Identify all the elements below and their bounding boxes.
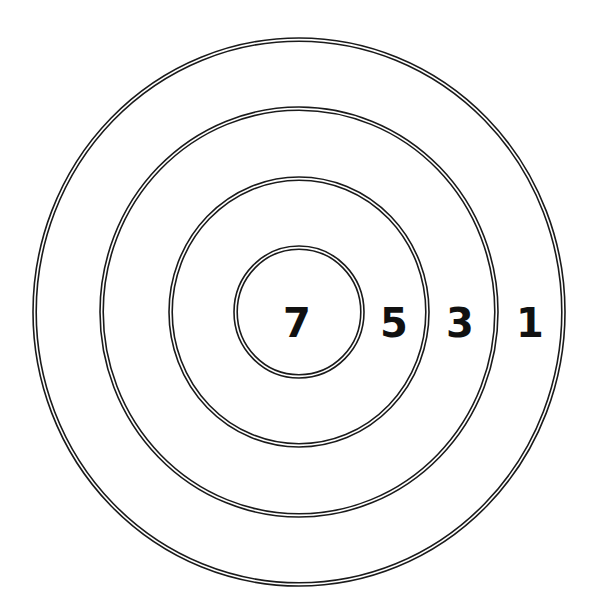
score-label-1: 1 — [516, 300, 544, 346]
score-labels: 1357 — [283, 300, 544, 346]
score-label-7: 7 — [283, 300, 311, 346]
target-diagram: 1357 — [0, 0, 593, 616]
score-label-3: 3 — [446, 300, 474, 346]
score-label-5: 5 — [380, 300, 408, 346]
